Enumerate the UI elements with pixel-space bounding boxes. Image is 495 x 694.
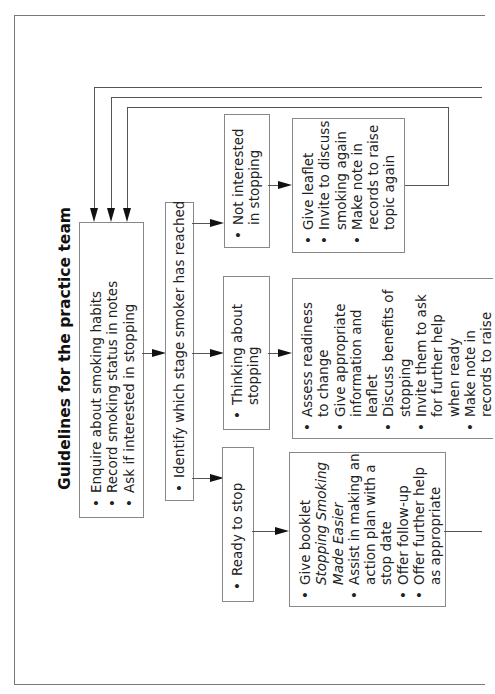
list-item: Make note in records to raise: [462, 290, 495, 431]
loop-line-1-vertical: [94, 87, 95, 209]
arrow-right-icon: [278, 181, 292, 189]
not-interested-actions-box: Give leaflet Invite to discuss smoking a…: [292, 118, 405, 253]
list-item: Record smoking status in notes: [104, 281, 120, 507]
ready-actions-text: Give booklet Stopping Smoking Made Easie…: [297, 453, 444, 599]
identify-stage-box: Identify which stage smoker has reached: [165, 202, 194, 501]
initial-steps-box: Enquire about smoking habits Record smok…: [79, 222, 144, 518]
list-item: Give booklet Stopping Smoking Made Easie…: [297, 453, 346, 599]
loop-line-2-horizontal: [111, 97, 482, 98]
loop-line-3-vertical: [127, 107, 128, 209]
not-interested-text: Not interested in stopping: [230, 128, 263, 239]
list-item: Invite them to ask for further help when…: [413, 290, 462, 431]
initial-steps-text: Enquire about smoking habits Record smok…: [88, 281, 137, 507]
connector-line: [192, 223, 212, 224]
thinking-about-stopping-box: Thinking about stopping: [223, 276, 270, 430]
list-item: Ready to stop: [229, 483, 245, 590]
arrow-right-icon: [152, 349, 166, 357]
list-item: Offer follow-up: [395, 453, 411, 599]
list-item: Not interested in stopping: [230, 128, 263, 239]
connector-line: [192, 353, 212, 354]
thinking-about-stopping-text: Thinking about stopping: [229, 304, 262, 419]
list-item: Assess readiness to change: [299, 290, 332, 431]
connector-line: [444, 531, 482, 532]
loop-line-1-horizontal: [94, 87, 482, 88]
list-item: Invite to discuss smoking again: [316, 121, 349, 244]
ready-actions-box: Give booklet Stopping Smoking Made Easie…: [289, 452, 446, 607]
loop-arrow-1-icon: [90, 208, 98, 222]
not-interested-box: Not interested in stopping: [224, 114, 270, 248]
list-item: Discuss benefits of stopping: [380, 290, 413, 431]
list-item: Ask if interested in stopping: [121, 281, 137, 507]
connector-line: [192, 478, 212, 479]
list-item: Assist in making an action plan with a s…: [346, 453, 395, 599]
loop-arrow-2-icon: [107, 208, 115, 222]
list-item: Make note in records to raise topic agai…: [349, 121, 398, 244]
list-item: Enquire about smoking habits: [88, 281, 104, 507]
loop-line-3-right: [448, 107, 449, 186]
loop-line-3-from-box: [403, 185, 449, 186]
loop-arrow-3-icon: [123, 208, 131, 222]
loop-line-3-horizontal: [127, 107, 448, 108]
arrow-right-icon: [275, 527, 289, 535]
connector-line: [252, 531, 277, 532]
arrow-right-icon: [210, 349, 224, 357]
thinking-actions-text: Assess readiness to change Give appropri…: [299, 290, 495, 431]
list-item: Offer further help as appropriate: [411, 453, 444, 599]
page-title: Guidelines for the practice team: [56, 207, 74, 490]
ready-to-stop-box: Ready to stop: [222, 447, 254, 602]
not-interested-actions-text: Give leaflet Invite to discuss smoking a…: [300, 121, 398, 244]
identify-stage-text: Identify which stage smoker has reached: [171, 201, 187, 492]
booklet-title: Stopping Smoking: [313, 462, 329, 585]
booklet-title: Made Easier: [330, 502, 346, 585]
list-item: Thinking about stopping: [229, 304, 262, 419]
thinking-actions-box: Assess readiness to change Give appropri…: [292, 278, 493, 439]
loop-line-2-vertical: [111, 97, 112, 209]
ready-to-stop-text: Ready to stop: [229, 483, 245, 590]
list-item: Give appropriate information and leaflet: [332, 290, 381, 431]
arrow-right-icon: [210, 219, 224, 227]
list-item: Identify which stage smoker has reached: [171, 201, 187, 492]
list-item: Give leaflet: [300, 121, 316, 244]
arrow-right-icon: [278, 349, 292, 357]
